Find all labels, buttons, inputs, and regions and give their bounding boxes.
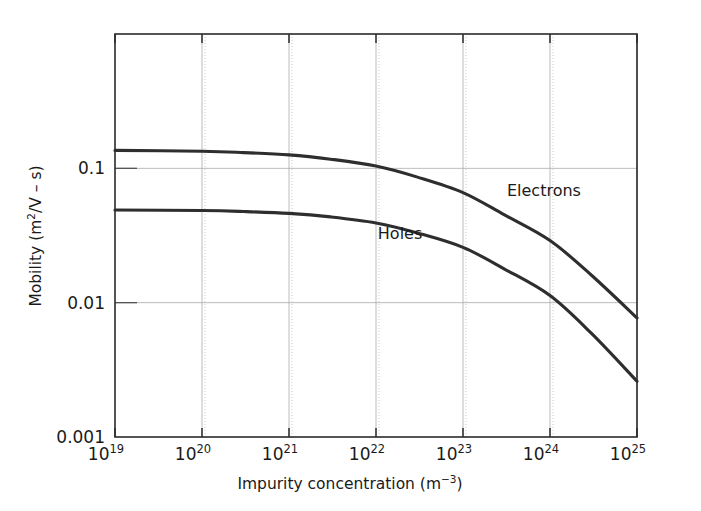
chart-background: [0, 0, 701, 511]
y-axis-title-base: Mobility (m: [27, 220, 45, 307]
x-axis-title: Impurity concentration (m−3): [237, 473, 462, 493]
y-axis-title-rest: /V – s): [27, 165, 45, 213]
x-tick-label-exponent: 25: [632, 442, 647, 456]
x-axis-title-base: Impurity concentration (m: [237, 475, 441, 493]
series-label-electrons: Electrons: [507, 181, 581, 200]
x-tick-label-base: 10: [523, 444, 545, 464]
svg-text:Impurity concentration (m−3): Impurity concentration (m−3): [237, 473, 462, 493]
y-tick-label: 0.001: [56, 427, 105, 447]
y-tick-label: 0.01: [67, 293, 105, 313]
mobility-vs-impurity-chart: 1019102010211022102310241025 0.10.010.00…: [0, 0, 701, 511]
x-tick-label-exponent: 22: [371, 442, 386, 456]
y-axis-title: Mobility (m2/V – s): [25, 165, 45, 306]
x-axis-title-close: ): [457, 475, 463, 493]
x-tick-label-base: 10: [610, 444, 632, 464]
x-tick-label-exponent: 19: [110, 442, 125, 456]
series-label-holes: Holes: [378, 224, 422, 243]
x-axis-title-superscript: −3: [441, 473, 456, 485]
x-tick-label-exponent: 24: [545, 442, 560, 456]
x-tick-label-base: 10: [88, 444, 110, 464]
x-tick-label-exponent: 20: [197, 442, 212, 456]
x-tick-label-base: 10: [349, 444, 371, 464]
x-tick-label-exponent: 21: [284, 442, 299, 456]
y-axis-title-superscript: 2: [25, 213, 37, 220]
x-tick-label-base: 10: [436, 444, 458, 464]
x-tick-label-base: 10: [175, 444, 197, 464]
x-tick-label-base: 10: [262, 444, 284, 464]
svg-text:Mobility (m2/V – s): Mobility (m2/V – s): [25, 165, 45, 306]
y-tick-label: 0.1: [78, 158, 105, 178]
chart-svg: 1019102010211022102310241025 0.10.010.00…: [0, 0, 701, 511]
x-tick-label-exponent: 23: [458, 442, 473, 456]
